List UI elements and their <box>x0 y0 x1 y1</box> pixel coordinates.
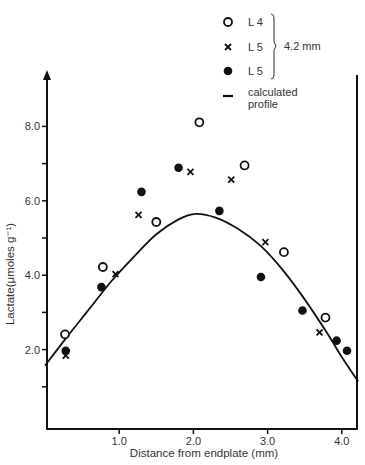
open-circle-marker <box>61 330 69 338</box>
y-tick-label: 2.0 <box>25 344 40 356</box>
open-circle-marker <box>321 314 329 322</box>
open-circle-marker <box>152 218 160 226</box>
y-tick-label: 8.0 <box>25 120 40 132</box>
filled-circle-marker <box>298 306 307 315</box>
legend-filled-circle-icon <box>224 67 233 76</box>
legend-bracket <box>271 14 276 79</box>
legend-label: calculated <box>248 86 298 98</box>
lactate-profile-chart: 2.04.06.08.01.02.03.04.0 L 4L 5L 5calcul… <box>0 0 365 465</box>
filled-circle-marker <box>174 163 183 172</box>
open-circle-marker <box>241 161 249 169</box>
y-tick-label: 4.0 <box>25 269 40 281</box>
data-points <box>61 118 351 358</box>
open-circle-marker <box>280 248 288 256</box>
filled-circle-marker <box>215 207 224 216</box>
y-axis-label: Lactate(μmoles g⁻¹) <box>4 223 16 325</box>
open-circle-marker <box>195 118 203 126</box>
legend-label: L 5 <box>248 41 263 53</box>
open-circle-marker <box>99 263 107 271</box>
legend-cross-icon <box>225 44 231 50</box>
cross-marker <box>228 177 234 183</box>
filled-circle-marker <box>332 336 341 345</box>
x-axis-label: Distance from endplate (mm) <box>130 447 278 459</box>
calculated-profile-curve <box>45 214 358 382</box>
cross-marker <box>262 239 268 245</box>
filled-circle-marker <box>137 188 146 197</box>
legend-label: L 4 <box>248 16 263 28</box>
cross-marker <box>317 329 323 335</box>
filled-circle-marker <box>97 283 106 292</box>
x-tick-label: 2.0 <box>186 435 201 447</box>
legend-open-circle-icon <box>224 18 232 26</box>
chart-svg: 2.04.06.08.01.02.03.04.0 L 4L 5L 5calcul… <box>0 0 365 465</box>
filled-circle-marker <box>257 273 266 282</box>
filled-circle-marker <box>343 346 352 355</box>
axes: 2.04.06.08.01.02.03.04.0 <box>25 70 358 447</box>
y-axis-arrow-icon <box>43 70 51 80</box>
x-tick-label: 1.0 <box>112 435 127 447</box>
x-tick-label: 4.0 <box>334 435 349 447</box>
legend-label: profile <box>248 98 278 110</box>
filled-circle-marker <box>61 346 70 355</box>
cross-marker <box>187 169 193 175</box>
legend-bracket-label: 4.2 mm <box>284 40 321 52</box>
cross-marker <box>135 212 141 218</box>
profile-line <box>45 214 358 382</box>
legend: L 4L 5L 5calculatedprofile4.2 mm <box>223 14 321 110</box>
x-tick-label: 3.0 <box>260 435 275 447</box>
y-tick-label: 6.0 <box>25 195 40 207</box>
legend-label: L 5 <box>248 65 263 77</box>
